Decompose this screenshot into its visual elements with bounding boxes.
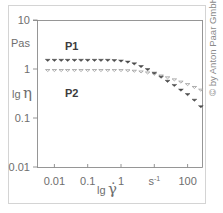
open-triangle-marker xyxy=(106,70,110,72)
open-triangle-marker xyxy=(192,86,196,88)
filled-triangle-marker xyxy=(105,59,110,61)
series-label-p1: P1 xyxy=(65,40,78,52)
open-triangle-marker xyxy=(99,70,103,72)
open-triangle-marker xyxy=(145,72,149,74)
filled-triangle-marker xyxy=(165,80,170,82)
filled-triangle-marker xyxy=(172,84,177,86)
filled-triangle-marker xyxy=(159,76,164,78)
filled-triangle-marker xyxy=(45,59,50,61)
x-axis-gamma-dot: γ̇ xyxy=(108,180,117,198)
y-tick-label: 10 xyxy=(18,14,30,26)
open-triangle-marker xyxy=(126,70,130,72)
open-triangle-marker xyxy=(86,70,90,72)
y-tick-label: 0.01 xyxy=(9,161,30,173)
open-triangle-marker xyxy=(79,70,83,72)
copyright-text: © by Anton Paar GmbH xyxy=(207,0,218,96)
open-triangle-marker xyxy=(165,77,169,79)
filled-triangle-marker xyxy=(185,94,190,96)
open-triangle-marker xyxy=(172,79,176,81)
filled-triangle-marker xyxy=(125,61,130,63)
filled-triangle-marker xyxy=(79,59,84,61)
filled-triangle-marker xyxy=(72,59,77,61)
x-axis-lg: lg xyxy=(97,184,106,196)
open-triangle-marker xyxy=(119,70,123,72)
y-axis-lg: lg xyxy=(12,88,21,100)
filled-triangle-marker xyxy=(112,60,117,62)
y-unit-label: Pas xyxy=(11,37,30,49)
filled-triangle-marker xyxy=(85,59,90,61)
filled-triangle-marker xyxy=(99,59,104,61)
filled-triangle-marker xyxy=(145,69,150,71)
viscosity-chart: 1010.10.01 0.010.11s-1100 Pas lg η lg γ̇… xyxy=(0,0,223,213)
y-tick-label: 1 xyxy=(24,63,30,75)
x-tick-label: 100 xyxy=(178,175,196,187)
open-triangle-marker xyxy=(112,70,116,72)
filled-triangle-marker xyxy=(65,59,70,61)
series-label-p2: P2 xyxy=(65,87,78,99)
series-p1-markers xyxy=(45,59,203,107)
x-tick-label: 1 xyxy=(118,175,124,187)
x-axis-label: lg γ̇ xyxy=(97,180,117,198)
filled-triangle-marker xyxy=(119,60,124,62)
filled-triangle-marker xyxy=(52,59,57,61)
filled-triangle-marker xyxy=(139,66,144,68)
plot-axes xyxy=(33,20,203,168)
x-tick-label: 0.01 xyxy=(44,175,65,187)
open-triangle-marker xyxy=(185,84,189,86)
open-triangle-marker xyxy=(72,70,76,72)
open-triangle-marker xyxy=(132,70,136,72)
open-triangle-marker xyxy=(46,70,50,72)
y-axis-label: lg η xyxy=(12,84,32,102)
y-axis-eta: η xyxy=(23,84,32,102)
filled-triangle-marker xyxy=(132,63,137,65)
filled-triangle-marker xyxy=(92,59,97,61)
open-triangle-marker xyxy=(139,71,143,73)
y-tick-label: 0.1 xyxy=(15,112,30,124)
open-triangle-marker xyxy=(52,70,56,72)
filled-triangle-marker xyxy=(179,89,184,91)
open-triangle-marker xyxy=(179,81,183,83)
filled-triangle-marker xyxy=(192,99,197,101)
filled-triangle-marker xyxy=(59,59,64,61)
x-tick-label: 0.1 xyxy=(80,175,95,187)
outer-frame xyxy=(9,6,206,204)
open-triangle-marker xyxy=(59,70,63,72)
open-triangle-marker xyxy=(65,70,69,72)
x-tick-label: s-1 xyxy=(148,175,160,187)
open-triangle-marker xyxy=(92,70,96,72)
